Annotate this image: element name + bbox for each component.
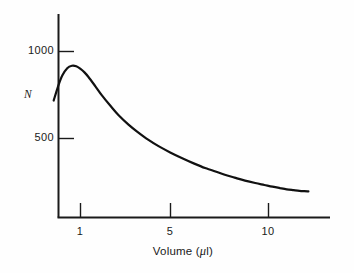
x-axis-tick-label-10: 10 xyxy=(256,226,280,237)
y-axis-tick-label-1000: 1000 xyxy=(20,45,54,56)
x-axis-title-suffix: l) xyxy=(206,245,213,257)
x-axis-tick-label-5: 5 xyxy=(160,226,180,237)
data-series-line xyxy=(54,66,309,192)
x-axis-title-prefix: Volume ( xyxy=(153,245,200,257)
y-axis-title: N xyxy=(24,89,32,101)
y-axis-tick-label-500: 500 xyxy=(20,132,54,143)
x-axis-tick-label-1: 1 xyxy=(70,226,90,237)
figure-container: 1000 500 N 1 5 10 Volume (μl) xyxy=(0,0,354,273)
x-axis-title: Volume (μl) xyxy=(123,245,243,258)
